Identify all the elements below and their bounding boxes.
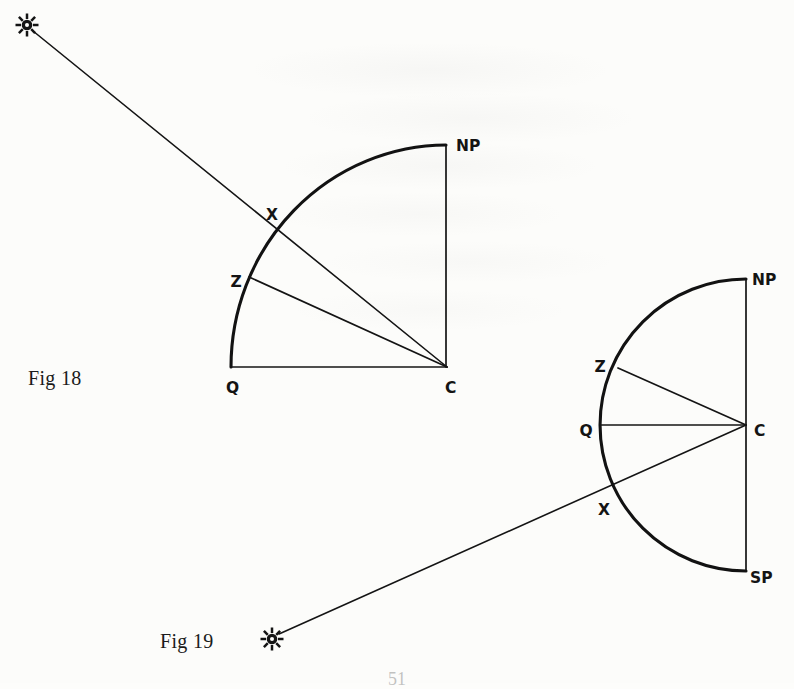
fig18-sun-ray — [33, 31, 447, 367]
fig18-arc-Q-to-NP — [231, 145, 446, 367]
fig18-diagram: NP Q X Z C — [33, 31, 480, 397]
fig18-sun-icon — [16, 14, 39, 37]
fig18-label-X: X — [266, 206, 278, 224]
fig18-label-Q: Q — [226, 379, 239, 397]
fig19-sun-icon — [261, 628, 284, 651]
fig19-label-NP: NP — [752, 271, 776, 289]
fig19-label-Z: Z — [594, 358, 605, 376]
fig19-label-SP: SP — [750, 569, 773, 587]
fig18-label-NP: NP — [456, 137, 480, 155]
fig19-caption: Fig 19 — [160, 630, 213, 653]
fig18-radius-C-to-Z — [249, 277, 447, 367]
fig19-label-Q: Q — [579, 422, 592, 440]
fig18-label-C: C — [445, 379, 456, 397]
fig18-caption: Fig 18 — [28, 367, 81, 390]
fig19-label-C: C — [754, 422, 765, 440]
fig19-radius-C-to-Z — [618, 368, 746, 425]
page-number: 51 — [0, 669, 794, 689]
fig19-sun-ray — [279, 425, 746, 634]
fig18-label-Z: Z — [230, 273, 241, 291]
fig19-label-X: X — [598, 501, 610, 519]
